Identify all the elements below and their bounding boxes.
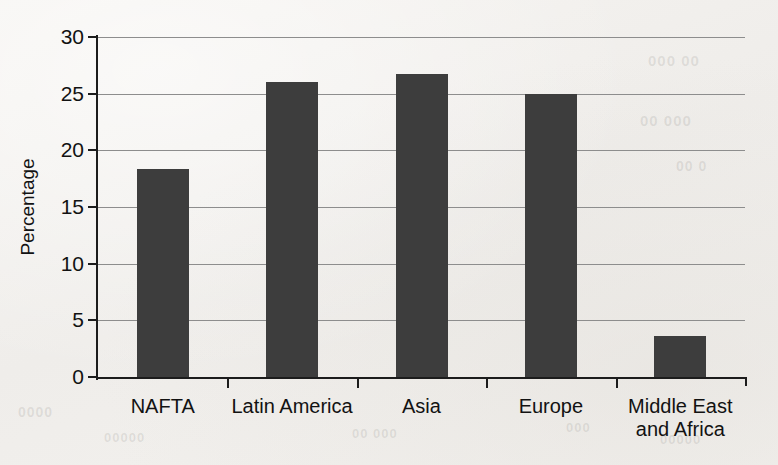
y-axis-tick-label: 10 xyxy=(40,253,84,274)
y-axis-tick-label: 30 xyxy=(40,26,84,47)
y-axis-tick-label: 20 xyxy=(40,139,84,160)
y-axis-tick-label: 15 xyxy=(40,196,84,217)
bleedthrough-text: 00 000 xyxy=(352,426,398,441)
gridline xyxy=(98,37,745,38)
x-axis-tick xyxy=(357,379,359,388)
bleedthrough-text: 00000 xyxy=(104,430,145,445)
y-axis-tick xyxy=(88,263,97,265)
y-axis-tick-label: 5 xyxy=(40,309,84,330)
y-axis-tick xyxy=(88,376,97,378)
x-axis-tick xyxy=(616,379,618,388)
bar xyxy=(396,74,448,378)
bar xyxy=(525,94,577,378)
x-axis-category-label: Europe xyxy=(486,395,615,418)
y-axis-tick xyxy=(88,319,97,321)
x-axis-tick xyxy=(227,379,229,388)
bleedthrough-text: 000 xyxy=(566,420,591,435)
y-axis-tick-label: 25 xyxy=(40,83,84,104)
x-axis-tick xyxy=(486,379,488,388)
x-axis-category-label: Latin America xyxy=(227,395,356,418)
y-axis-tick xyxy=(88,149,97,151)
plot-area xyxy=(98,37,745,378)
bar xyxy=(137,169,189,378)
x-axis-category-label: Asia xyxy=(357,395,486,418)
y-axis-tick-label: 0 xyxy=(40,366,84,387)
x-axis-end-tick xyxy=(745,377,747,386)
y-axis-tick xyxy=(88,93,97,95)
bar xyxy=(654,336,706,378)
bar xyxy=(266,82,318,378)
y-axis-tick xyxy=(88,36,97,38)
x-axis-category-label: NAFTA xyxy=(98,395,227,418)
x-axis-line xyxy=(96,377,747,379)
bar-chart-figure: 000 0000 00000 000000000000 00000000000 … xyxy=(0,0,778,465)
y-axis-tick xyxy=(88,206,97,208)
y-axis-title: Percentage xyxy=(17,137,39,277)
x-axis-category-label: Middle East and Africa xyxy=(616,395,745,441)
